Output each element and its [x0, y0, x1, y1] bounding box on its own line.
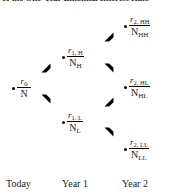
- fraction-numerator: r2, HH: [129, 14, 150, 25]
- subscript: 2, HL: [134, 79, 149, 86]
- fraction-high-1: r1, H NH: [67, 45, 84, 68]
- node-dot-icon: [62, 121, 65, 124]
- fraction-root: r0 N: [17, 76, 31, 99]
- subscript: 2, LL: [134, 141, 148, 148]
- arrowhead-down-right-icon: [103, 60, 117, 74]
- tree-node-high-high-2: r2, HH NHH: [124, 14, 150, 37]
- subscript: HH: [138, 31, 148, 39]
- symbol-r: r: [130, 75, 134, 85]
- fraction-high-low-2: r2, HL NHL: [129, 75, 150, 98]
- symbol-r: r: [130, 137, 134, 147]
- fraction-numerator: r1, L: [67, 110, 83, 121]
- symbol-r: r: [130, 14, 134, 24]
- fraction-denominator: NLL: [130, 149, 148, 161]
- tree-node-low-1: r1, L NL: [62, 110, 83, 133]
- subscript: 1, L: [72, 114, 82, 121]
- arrowhead-down-right-icon: [40, 91, 54, 105]
- fraction-denominator: NH: [68, 57, 82, 69]
- subscript: LL: [138, 154, 147, 162]
- arrowhead-down-right-icon: [103, 124, 117, 138]
- fraction-numerator: r0: [20, 76, 29, 87]
- tree-node-low-low-2: r2, LL NLL: [124, 137, 149, 160]
- node-dot-icon: [12, 87, 15, 90]
- arrowhead-up-right-icon: [40, 62, 54, 76]
- fraction-numerator: r2, LL: [129, 137, 149, 148]
- symbol-r: r: [68, 110, 72, 120]
- node-dot-icon: [124, 25, 127, 28]
- arrowhead-up-right-icon: [103, 31, 117, 45]
- timeline-axis-labels: Today Year 1 Year 2: [0, 178, 173, 192]
- node-dot-icon: [62, 56, 65, 59]
- arrowhead-up-right-icon: [103, 96, 117, 110]
- symbol-N: N: [20, 88, 27, 99]
- fraction-high-high-2: r2, HH NHH: [129, 14, 150, 37]
- tree-node-high-1: r1, H NH: [62, 45, 84, 68]
- subscript: H: [76, 62, 81, 70]
- fraction-denominator: NHH: [130, 26, 149, 38]
- tree-node-root: r0 N: [12, 76, 31, 99]
- fraction-numerator: r1, H: [67, 45, 84, 56]
- node-dot-icon: [124, 148, 127, 151]
- node-dot-icon: [124, 86, 127, 89]
- fraction-low-1: r1, L NL: [67, 110, 83, 133]
- axis-label-today: Today: [6, 178, 31, 189]
- symbol-r: r: [68, 45, 72, 55]
- subscript: 0: [24, 80, 27, 87]
- fraction-low-low-2: r2, LL NLL: [129, 137, 149, 160]
- tree-node-high-low-2: r2, HL NHL: [124, 75, 150, 98]
- fraction-denominator: NL: [68, 122, 82, 134]
- subscript: 2, HH: [134, 18, 150, 25]
- subscript: HL: [138, 92, 147, 100]
- fraction-denominator: N: [19, 88, 28, 100]
- subscript: L: [76, 127, 80, 135]
- fraction-numerator: r2, HL: [129, 75, 150, 86]
- subscript: 1, H: [72, 49, 83, 56]
- axis-label-year-2: Year 2: [122, 178, 148, 189]
- axis-label-year-1: Year 1: [62, 178, 88, 189]
- figure-caption-clipped: of the One-Year Binomial Interest Rate: [2, 0, 171, 3]
- fraction-denominator: NHL: [130, 87, 149, 99]
- binomial-interest-rate-tree: of the One-Year Binomial Interest Rate r…: [0, 0, 173, 196]
